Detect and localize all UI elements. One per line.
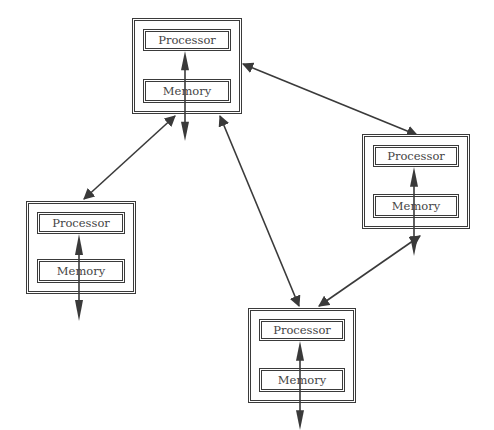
processor-box: Processor bbox=[37, 212, 125, 234]
memory-box: Memory bbox=[37, 259, 125, 283]
processor-label: Processor bbox=[158, 33, 216, 47]
processing-node-2: Processor Memory bbox=[26, 201, 136, 294]
processor-box: Processor bbox=[259, 319, 345, 341]
processing-node-3: Processor Memory bbox=[362, 134, 470, 229]
edge-n1-n4 bbox=[220, 116, 299, 306]
edge-n1-n3 bbox=[243, 64, 417, 135]
memory-box: Memory bbox=[259, 368, 345, 392]
processor-label: Processor bbox=[52, 216, 110, 230]
memory-label: Memory bbox=[278, 373, 326, 387]
processing-node-1: Processor Memory bbox=[132, 18, 242, 114]
memory-box: Memory bbox=[143, 79, 231, 103]
processor-box: Processor bbox=[143, 29, 231, 51]
memory-box: Memory bbox=[373, 194, 459, 218]
memory-label: Memory bbox=[57, 264, 105, 278]
processor-box: Processor bbox=[373, 145, 459, 167]
processing-node-4: Processor Memory bbox=[248, 308, 356, 403]
processor-label: Processor bbox=[387, 149, 445, 163]
memory-label: Memory bbox=[163, 84, 211, 98]
memory-label: Memory bbox=[392, 199, 440, 213]
processor-label: Processor bbox=[273, 323, 331, 337]
